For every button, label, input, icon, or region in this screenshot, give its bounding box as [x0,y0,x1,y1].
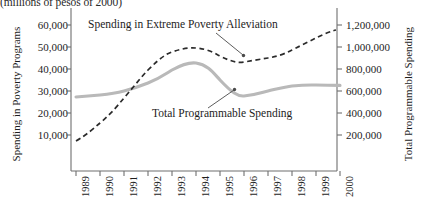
axis-lines [71,8,337,171]
series-line-total-programmable [76,63,340,97]
chart-figure: (millions of pesos of 2000) Spending in … [0,0,424,214]
right-axis-ticks [337,25,342,135]
left-axis-ticks [66,25,71,135]
x-axis-ticks [76,171,340,176]
leader-line-extreme-poverty [216,33,245,57]
plot-canvas [0,0,424,214]
